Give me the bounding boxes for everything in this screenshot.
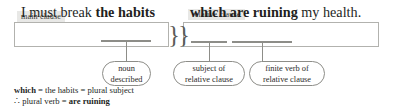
relative-clause-plain-text: my health.: [298, 4, 361, 20]
relative-pronoun-which: which: [190, 4, 230, 20]
explanatory-notes: which = the habits = plural subject ∴ pl…: [14, 85, 134, 108]
double-brace-divider-icon: }}: [168, 20, 186, 50]
callout-subject-line-1: subject of: [174, 63, 244, 74]
note-line-1-bold: which: [14, 85, 36, 95]
connector-line-noun: [126, 41, 127, 62]
callout-noun-line-2: described: [103, 74, 150, 85]
main-clause-text: I must break the habits: [21, 2, 155, 23]
note-line-1-rest: = the habits = plural subject: [36, 85, 134, 95]
callout-verb-line-1: finite verb of: [250, 63, 324, 74]
connector-line-subject: [209, 42, 210, 62]
callout-finite-verb-of-relative-clause: finite verb of relative clause: [249, 61, 325, 86]
relative-clause-finite-verb: are ruining: [230, 4, 298, 20]
callout-noun-described: noun described: [102, 61, 151, 86]
note-line-1: which = the habits = plural subject: [14, 85, 134, 96]
connector-line-verb: [262, 42, 263, 62]
callout-subject-of-relative-clause: subject of relative clause: [173, 61, 245, 86]
relative-clause-box: [183, 22, 379, 47]
main-clause-noun-phrase: the habits: [95, 4, 155, 20]
callout-verb-line-2: relative clause: [250, 74, 324, 85]
note-line-2: ∴ plural verb = are ruining: [14, 96, 134, 107]
note-line-2-rest: plural verb =: [22, 96, 69, 106]
main-clause-plain-text: I must break: [21, 4, 95, 20]
callout-subject-line-2: relative clause: [174, 74, 244, 85]
callout-noun-line-1: noun: [103, 63, 150, 74]
therefore-symbol-icon: ∴: [14, 96, 22, 106]
main-clause-box: [14, 22, 169, 47]
relative-clause-text: which are ruining my health.: [190, 2, 361, 23]
grammar-diagram: main clause relative clause I must break…: [0, 0, 394, 111]
note-line-2-bold: are ruining: [69, 96, 110, 106]
